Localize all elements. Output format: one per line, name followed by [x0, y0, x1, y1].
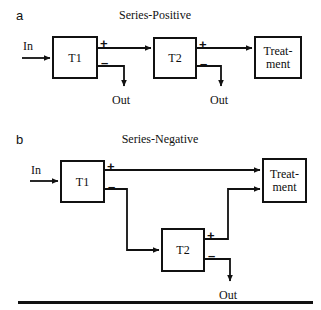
bottom-divider-rule — [18, 301, 313, 304]
panel-b-wire-t1minus-to-t2 — [105, 189, 159, 250]
panel-b-wire-t2plus-to-treatment — [205, 189, 260, 239]
figure-series-diagrams: a Series-Positive T1 T2 Treat- ment In O… — [0, 0, 321, 310]
connector-wires — [0, 0, 321, 310]
panel-a-wire-t1minus-to-out — [98, 66, 124, 86]
panel-b-wire-t2minus-to-out — [205, 259, 230, 281]
panel-a-wire-t2minus-to-out — [197, 66, 221, 86]
